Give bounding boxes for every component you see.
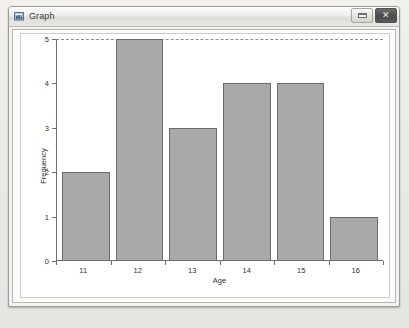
bar-11[interactable] <box>62 172 110 261</box>
y-tick-label: 2 <box>45 169 49 176</box>
y-axis-title: Frequency <box>39 148 48 183</box>
minimize-icon <box>358 13 367 18</box>
bar-slot <box>274 39 328 261</box>
bar-slot <box>220 39 274 261</box>
x-tick-label: 11 <box>79 267 87 275</box>
bar-12[interactable] <box>116 39 164 261</box>
minimize-button[interactable] <box>351 8 373 23</box>
x-tick <box>274 261 275 265</box>
window-controls: ✕ <box>351 8 397 23</box>
x-tick <box>329 261 330 265</box>
y-axis-line <box>56 39 57 261</box>
x-tick <box>383 261 384 265</box>
graph-window-icon <box>14 11 25 22</box>
bar-series <box>56 39 383 261</box>
close-icon: ✕ <box>382 11 390 20</box>
x-tick <box>111 261 112 265</box>
y-tick-label: 1 <box>45 213 49 220</box>
close-button[interactable]: ✕ <box>375 8 397 23</box>
bar-16[interactable] <box>330 217 378 261</box>
y-tick-label: 5 <box>45 36 49 43</box>
bar-15[interactable] <box>277 83 325 261</box>
bar-13[interactable] <box>169 128 217 261</box>
x-tick-label: 15 <box>297 267 305 275</box>
bar-slot <box>327 39 381 261</box>
window-title: Graph <box>29 11 55 22</box>
graph-window: Graph ✕ Frequency Age <box>8 6 400 307</box>
y-tick-label: 4 <box>45 80 49 87</box>
bar-slot <box>113 39 167 261</box>
window-client-area: Frequency Age 012345 111213141516 <box>12 29 396 303</box>
x-axis-line <box>56 260 383 261</box>
x-tick <box>56 261 57 265</box>
page-backdrop: Graph ✕ Frequency Age <box>0 0 409 328</box>
x-tick <box>220 261 221 265</box>
x-tick-label: 13 <box>188 267 196 275</box>
x-tick-label: 12 <box>134 267 142 275</box>
histogram-chart: Frequency Age 012345 111213141516 <box>13 30 395 302</box>
bar-slot <box>59 39 113 261</box>
x-tick-label: 16 <box>352 267 360 275</box>
bar-slot <box>166 39 220 261</box>
window-titlebar[interactable]: Graph ✕ <box>9 7 399 27</box>
bar-14[interactable] <box>223 83 271 261</box>
x-axis-title: Age <box>56 276 383 285</box>
x-tick-label: 14 <box>243 267 251 275</box>
plot-area: 012345 111213141516 <box>56 39 383 261</box>
y-tick-label: 0 <box>45 258 49 265</box>
x-tick <box>165 261 166 265</box>
y-tick-label: 3 <box>45 124 49 131</box>
chart-frame: Frequency Age 012345 111213141516 <box>20 33 390 298</box>
